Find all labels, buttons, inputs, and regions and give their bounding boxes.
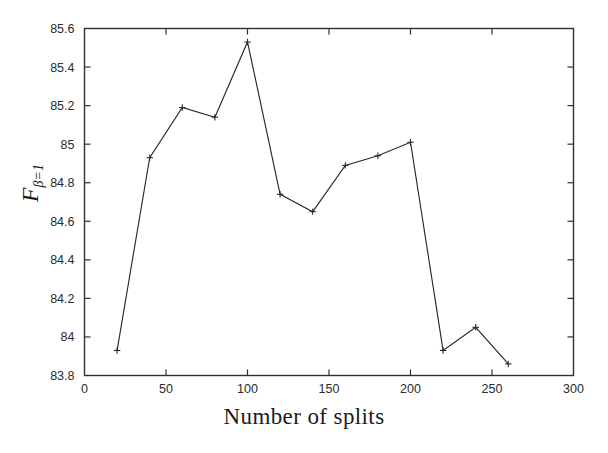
axis-frame [85,29,574,376]
x-tick-label: 150 [319,382,340,396]
x-axis-title: Number of splits [0,404,608,430]
x-tick-label: 200 [400,382,421,396]
y-tick-label: 84.2 [50,292,74,306]
y-tick-label: 85.2 [50,99,74,113]
data-series-line [117,42,508,364]
y-tick-label: 84.4 [50,253,74,267]
data-point-marker [114,347,120,353]
x-tick-label: 300 [563,382,584,396]
x-tick-label: 0 [81,382,88,396]
x-tick-label: 100 [237,382,258,396]
y-tick-label: 85.6 [50,22,74,36]
y-tick-label: 85 [61,138,75,152]
data-point-marker [375,153,381,159]
data-point-marker [147,154,153,160]
data-point-marker [277,191,283,197]
y-tick-label: 84.6 [50,215,74,229]
data-point-marker [244,39,250,45]
chart-figure: 05010015020025030083.88484.284.484.684.8… [0,0,608,453]
y-tick-label: 84 [61,330,75,344]
y-axis-title: Fβ=1 [17,138,47,228]
x-tick-label: 50 [159,382,173,396]
data-point-marker [179,104,185,110]
y-axis-title-subscript: β=1 [31,164,46,187]
y-tick-label: 83.8 [50,369,74,383]
line-chart-plot: 05010015020025030083.88484.284.484.684.8… [0,0,608,453]
x-tick-label: 250 [482,382,503,396]
y-tick-label: 84.8 [50,176,74,190]
data-point-marker [212,114,218,120]
y-axis-title-symbol: F [17,188,43,203]
y-tick-label: 85.4 [50,61,74,75]
data-point-marker [407,139,413,145]
